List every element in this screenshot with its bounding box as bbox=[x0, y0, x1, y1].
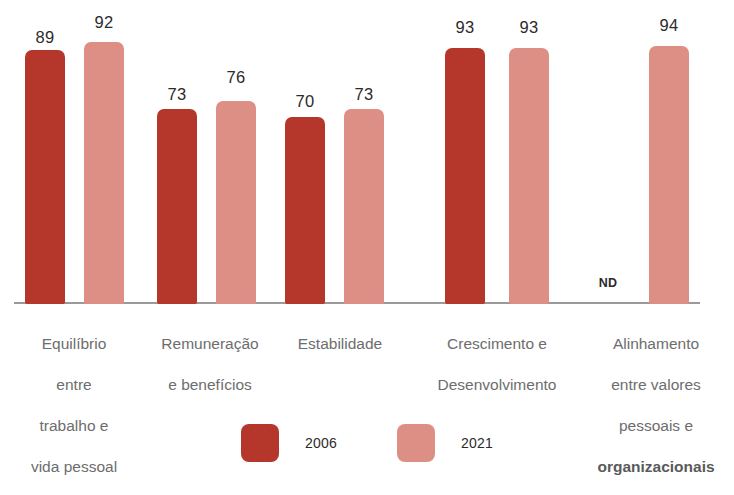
cat-line: entre bbox=[4, 375, 144, 396]
legend-swatch-2006 bbox=[241, 424, 279, 462]
cat-line: Crescimento e bbox=[413, 334, 581, 355]
plot-area: 89 92 73 76 70 73 93 93 ND 94 bbox=[0, 0, 734, 304]
cat-line: Equilíbrio bbox=[4, 334, 144, 355]
bar-value-73-estabilidade: 73 bbox=[324, 85, 404, 104]
bar-2021-equilibrio bbox=[84, 42, 124, 304]
cat-line: e benefícios bbox=[136, 375, 284, 396]
bar-2006-equilibrio bbox=[25, 50, 65, 304]
bar-2021-crescimento bbox=[509, 48, 549, 304]
bar-value-92: 92 bbox=[64, 13, 144, 32]
category-label-equilibrio: Equilíbrio entre trabalho e vida pessoal bbox=[4, 313, 144, 495]
legend-label-2021: 2021 bbox=[461, 435, 493, 451]
category-label-alinhamento: Alinhamento entre valores pessoais e org… bbox=[578, 313, 734, 495]
bar-2006-estabilidade bbox=[285, 117, 325, 304]
bar-2021-estabilidade bbox=[344, 109, 384, 304]
chart-legend: 2006 2021 bbox=[0, 424, 734, 462]
cat-line: Alinhamento bbox=[578, 334, 734, 355]
bar-2006-crescimento bbox=[445, 48, 485, 304]
category-label-crescimento: Crescimento e Desenvolvimento bbox=[413, 313, 581, 416]
bar-value-94: 94 bbox=[629, 16, 709, 35]
cat-line: entre valores bbox=[578, 375, 734, 396]
bar-2021-alinhamento bbox=[649, 46, 689, 304]
bar-2021-remuneracao bbox=[216, 101, 256, 304]
bar-chart: 89 92 73 76 70 73 93 93 ND 94 Equilíbrio… bbox=[0, 0, 734, 495]
legend-swatch-2021 bbox=[397, 424, 435, 462]
category-label-estabilidade: Estabilidade bbox=[275, 313, 405, 375]
legend-label-2006: 2006 bbox=[305, 435, 337, 451]
cat-line: Desenvolvimento bbox=[413, 375, 581, 396]
category-label-remuneracao: Remuneração e benefícios bbox=[136, 313, 284, 416]
no-data-label-alinhamento: ND bbox=[568, 276, 648, 290]
bar-value-73-remuneracao: 73 bbox=[137, 85, 217, 104]
legend-item-2006[interactable]: 2006 bbox=[241, 424, 337, 462]
legend-item-2021[interactable]: 2021 bbox=[397, 424, 493, 462]
bar-2006-remuneracao bbox=[157, 109, 197, 304]
cat-line: Remuneração bbox=[136, 334, 284, 355]
bar-value-76: 76 bbox=[196, 68, 276, 87]
cat-line: Estabilidade bbox=[275, 334, 405, 355]
bar-value-93-2021: 93 bbox=[489, 18, 569, 37]
